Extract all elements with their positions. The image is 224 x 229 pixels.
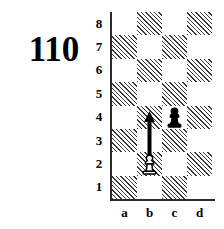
axis-horizontal-line bbox=[110, 199, 215, 201]
square-b2[interactable] bbox=[137, 152, 162, 175]
square-a2[interactable] bbox=[112, 152, 137, 175]
square-a1[interactable] bbox=[112, 176, 137, 199]
square-c3[interactable] bbox=[162, 129, 187, 152]
square-c7[interactable] bbox=[162, 35, 187, 58]
rank-label-7: 7 bbox=[92, 39, 106, 55]
square-c6[interactable] bbox=[162, 59, 187, 82]
square-a7[interactable] bbox=[112, 35, 137, 58]
square-b7[interactable] bbox=[137, 35, 162, 58]
rank-label-4: 4 bbox=[92, 109, 106, 125]
rank-label-1: 1 bbox=[92, 179, 106, 195]
board-diagram: 87654321 abcd bbox=[0, 0, 224, 229]
square-b4[interactable] bbox=[137, 106, 162, 129]
square-b3[interactable] bbox=[137, 129, 162, 152]
rank-label-8: 8 bbox=[92, 16, 106, 32]
rank-label-5: 5 bbox=[92, 86, 106, 102]
square-a5[interactable] bbox=[112, 82, 137, 105]
square-c1[interactable] bbox=[162, 176, 187, 199]
file-label-a: a bbox=[112, 205, 137, 221]
square-a4[interactable] bbox=[112, 106, 137, 129]
square-d4[interactable] bbox=[187, 106, 212, 129]
square-b8[interactable] bbox=[137, 12, 162, 35]
square-d7[interactable] bbox=[187, 35, 212, 58]
square-a6[interactable] bbox=[112, 59, 137, 82]
square-c5[interactable] bbox=[162, 82, 187, 105]
square-c8[interactable] bbox=[162, 12, 187, 35]
square-d5[interactable] bbox=[187, 82, 212, 105]
square-d2[interactable] bbox=[187, 152, 212, 175]
square-b6[interactable] bbox=[137, 59, 162, 82]
square-b1[interactable] bbox=[137, 176, 162, 199]
rank-label-6: 6 bbox=[92, 62, 106, 78]
square-d3[interactable] bbox=[187, 129, 212, 152]
square-d1[interactable] bbox=[187, 176, 212, 199]
square-a3[interactable] bbox=[112, 129, 137, 152]
chess-puzzle-diagram: 110 87654321 abcd bbox=[0, 0, 224, 229]
square-d8[interactable] bbox=[187, 12, 212, 35]
square-b5[interactable] bbox=[137, 82, 162, 105]
rank-label-3: 3 bbox=[92, 133, 106, 149]
square-c4[interactable] bbox=[162, 106, 187, 129]
chessboard[interactable] bbox=[112, 12, 212, 199]
square-a8[interactable] bbox=[112, 12, 137, 35]
rank-label-2: 2 bbox=[92, 156, 106, 172]
square-c2[interactable] bbox=[162, 152, 187, 175]
square-d6[interactable] bbox=[187, 59, 212, 82]
file-label-c: c bbox=[162, 205, 187, 221]
file-label-b: b bbox=[137, 205, 162, 221]
file-label-d: d bbox=[187, 205, 212, 221]
